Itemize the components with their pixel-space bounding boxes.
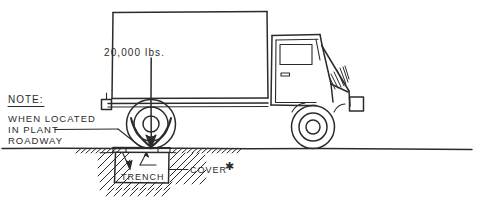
truck-chassis-rail <box>108 103 268 107</box>
trench-label: TRENCH <box>121 172 165 182</box>
note-line-2: IN PLANT <box>8 124 59 135</box>
note-heading: NOTE: <box>8 94 44 105</box>
earth-hatching-below-trench <box>100 182 172 196</box>
truck-front-bumper <box>350 97 364 111</box>
truck-over-trench-diagram: 20,000 lbs. NOTE: WHEN LOCATED IN PLANT … <box>0 0 477 210</box>
cover-label: COVER <box>190 165 227 175</box>
earth-hatching-right <box>172 149 241 154</box>
load-label: 20,000 lbs. <box>104 47 165 58</box>
truck-cab <box>271 35 333 106</box>
note-line-3: ROADWAY <box>8 135 63 146</box>
note-line-1: WHEN LOCATED <box>8 113 96 124</box>
note-leader-line <box>55 129 142 148</box>
engineering-sketch-canvas: 20,000 lbs. NOTE: WHEN LOCATED IN PLANT … <box>0 0 477 210</box>
cover-footnote-asterisk: ✱ <box>225 160 235 172</box>
truck-front-wheel <box>292 103 346 149</box>
